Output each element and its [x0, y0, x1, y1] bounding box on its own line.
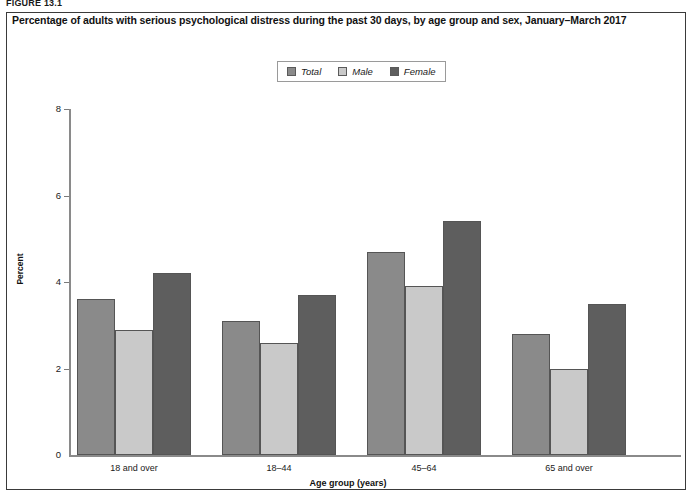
- chart-title: Percentage of adults with serious psycho…: [12, 14, 684, 26]
- legend-item: Female: [390, 66, 436, 77]
- legend-item-label: Total: [301, 66, 321, 77]
- legend-swatch-icon: [338, 67, 347, 76]
- chart-legend: TotalMaleFemale: [277, 61, 446, 82]
- legend-swatch-icon: [287, 67, 296, 76]
- legend-item: Total: [287, 66, 321, 77]
- legend-item-label: Female: [404, 66, 436, 77]
- legend-swatch-icon: [390, 67, 399, 76]
- legend-item: Male: [338, 66, 373, 77]
- figure-frame: [6, 12, 686, 490]
- figure-label: FIGURE 13.1: [6, 0, 62, 8]
- legend-item-label: Male: [352, 66, 373, 77]
